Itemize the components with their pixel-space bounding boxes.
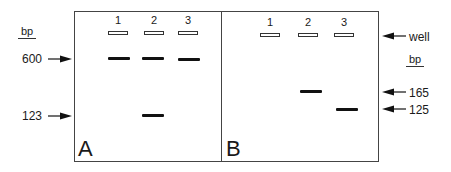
right-unit-label: bp: [406, 54, 424, 67]
band-a2-600: [142, 57, 164, 60]
lane-number-a3: 3: [178, 14, 198, 26]
lane-number-a1: 1: [108, 14, 128, 26]
lane-number-b1: 1: [260, 16, 280, 28]
band-a1-600: [108, 57, 130, 60]
panel-divider: [221, 11, 222, 162]
band-b3-125: [336, 108, 358, 111]
arrow-left-icon: [382, 105, 406, 113]
band-b2-165: [300, 90, 322, 93]
panel-label-a: A: [78, 138, 93, 160]
band-a3-600: [178, 58, 200, 61]
well-a2: [144, 31, 164, 35]
well-b1: [260, 33, 280, 37]
panel-label-b: B: [226, 138, 241, 160]
lane-number-b3: 3: [334, 16, 354, 28]
arrow-left-icon: [382, 32, 406, 40]
marker-label-125: 125: [409, 104, 429, 116]
well-label: well: [409, 31, 430, 43]
well-b2: [298, 33, 318, 37]
well-a1: [108, 31, 128, 35]
lane-number-a2: 2: [144, 14, 164, 26]
arrow-left-icon: [382, 88, 406, 96]
band-a2-123: [142, 114, 164, 117]
arrow-right-icon: [48, 112, 72, 120]
lane-number-b2: 2: [298, 16, 318, 28]
well-a3: [178, 31, 198, 35]
well-b3: [334, 33, 354, 37]
marker-label-165: 165: [409, 87, 429, 99]
left-unit-label: bp: [18, 26, 36, 39]
marker-label-600: 600: [22, 53, 42, 65]
arrow-right-icon: [48, 55, 72, 63]
marker-label-123: 123: [22, 110, 42, 122]
